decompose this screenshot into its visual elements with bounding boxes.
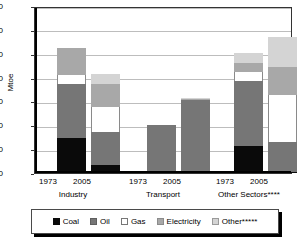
segment-gas xyxy=(57,75,86,83)
y-tick-label-80: 80 xyxy=(0,75,3,83)
legend-item-oil[interactable]: Oil xyxy=(90,218,110,226)
y-tick-label-20: 20 xyxy=(0,146,3,154)
segment-gas xyxy=(234,72,263,82)
legend-swatch-gas-icon xyxy=(121,218,128,225)
legend-label: Electricity xyxy=(167,218,201,226)
segment-electricity xyxy=(57,48,86,75)
y-tick-label-60: 60 xyxy=(0,98,3,106)
segment-coal xyxy=(57,138,86,173)
segment-other xyxy=(234,53,263,64)
legend-swatch-coal-icon xyxy=(53,218,60,225)
segment-oil xyxy=(91,132,120,164)
segment-electricity xyxy=(91,84,120,108)
segment-electricity xyxy=(234,63,263,71)
bar-transport-1973 xyxy=(147,125,176,173)
segment-electricity xyxy=(268,67,297,96)
chart-legend: CoalOilGasElectricityOther***** xyxy=(31,209,279,234)
x-axis-line xyxy=(35,171,291,173)
segment-gas xyxy=(91,107,120,132)
y-tick-label-40: 40 xyxy=(0,122,3,130)
legend-label: Coal xyxy=(63,218,79,226)
plot-area xyxy=(34,7,292,174)
x-group-label-other-sectors: Other Sectors**** xyxy=(194,190,299,199)
x-year-label-3: 2005 xyxy=(150,177,194,186)
x-year-label-1: 2005 xyxy=(60,177,104,186)
y-axis-line xyxy=(35,8,37,173)
legend-swatch-other-icon xyxy=(212,218,219,225)
segment-oil xyxy=(147,125,176,172)
plot-inner xyxy=(35,8,291,173)
legend-item-gas[interactable]: Gas xyxy=(121,218,146,226)
y-tick-label-0: 0 xyxy=(0,170,3,178)
bar-industry-2005 xyxy=(91,74,120,173)
y-tick-label-120: 120 xyxy=(0,27,3,35)
segment-gas xyxy=(268,95,297,142)
segment-coal xyxy=(234,146,263,173)
segment-oil xyxy=(181,100,210,173)
bar-industry-1973 xyxy=(57,48,86,173)
segment-oil xyxy=(57,84,86,139)
segment-other xyxy=(91,74,120,84)
legend-item-coal[interactable]: Coal xyxy=(53,218,79,226)
gridline-120 xyxy=(35,31,291,32)
legend-item-other[interactable]: Other***** xyxy=(212,218,258,226)
bar-transport-2005 xyxy=(181,98,210,173)
legend-swatch-oil-icon xyxy=(90,218,97,225)
y-tick-label-140: 140 xyxy=(0,3,3,11)
y-tick-mark-0 xyxy=(31,174,34,175)
legend-label: Other***** xyxy=(222,218,258,226)
stacked-bar-chart: Mtoe 020406080100120140 1973200519732005… xyxy=(0,0,299,243)
legend-label: Oil xyxy=(100,218,110,226)
segment-other xyxy=(268,37,297,67)
segment-oil xyxy=(234,81,263,145)
y-axis-title: Mtoe xyxy=(6,57,15,109)
legend-swatch-elec-icon xyxy=(157,218,164,225)
x-year-label-5: 2005 xyxy=(237,177,281,186)
segment-oil xyxy=(268,142,297,172)
bar-other-sectors-1973 xyxy=(234,53,263,173)
gridline-140 xyxy=(35,8,291,9)
legend-item-electricity[interactable]: Electricity xyxy=(157,218,201,226)
legend-label: Gas xyxy=(131,218,146,226)
bar-other-sectors-2005 xyxy=(268,37,297,173)
y-tick-label-100: 100 xyxy=(0,51,3,59)
